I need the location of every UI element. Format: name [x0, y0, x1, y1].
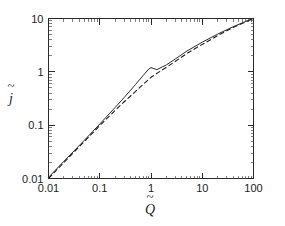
y-axis-tick-labels: 0.010.1110	[22, 13, 43, 185]
y-tick-label: 1	[37, 66, 43, 78]
series-layer	[49, 19, 254, 179]
y-tick-label: 0.1	[28, 119, 43, 131]
x-tick-label: 100	[244, 182, 262, 194]
x-axis-title: Q	[145, 202, 155, 217]
dashed-curve	[49, 19, 254, 179]
plot-frame	[49, 19, 254, 179]
x-tick-label: 10	[196, 182, 208, 194]
y-axis-ticks	[49, 19, 254, 179]
y-tick-label: 0.01	[22, 173, 43, 185]
x-axis-ticks	[49, 19, 254, 179]
solid-curve	[49, 19, 254, 178]
y-axis-title-group: ~ j	[7, 78, 14, 106]
figure-container: 0.010.1110100 0.010.1110 ~ Q ~ j	[0, 0, 285, 226]
log-log-plot: 0.010.1110100 0.010.1110 ~ Q ~ j	[0, 0, 285, 226]
y-axis-title: j	[7, 91, 13, 106]
y-tick-label: 10	[31, 13, 43, 25]
x-tick-label: 0.1	[92, 182, 107, 194]
